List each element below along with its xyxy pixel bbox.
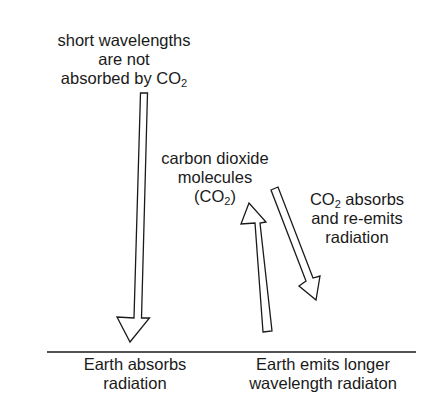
- label-earth-emits: Earth emits longer wavelength radiaton: [226, 355, 420, 393]
- label-short-wavelengths: short wavelengths are not absorbed by CO…: [34, 31, 214, 88]
- label-co2-molecules: carbon dioxide molecules (CO2): [145, 149, 285, 206]
- down-arrow-icon: [117, 93, 150, 342]
- label-co2-absorbs: CO2 absorbs and re-emits radiation: [296, 190, 418, 247]
- up-arrow-icon: [241, 203, 272, 332]
- label-earth-absorbs: Earth absorbs radiation: [62, 355, 208, 393]
